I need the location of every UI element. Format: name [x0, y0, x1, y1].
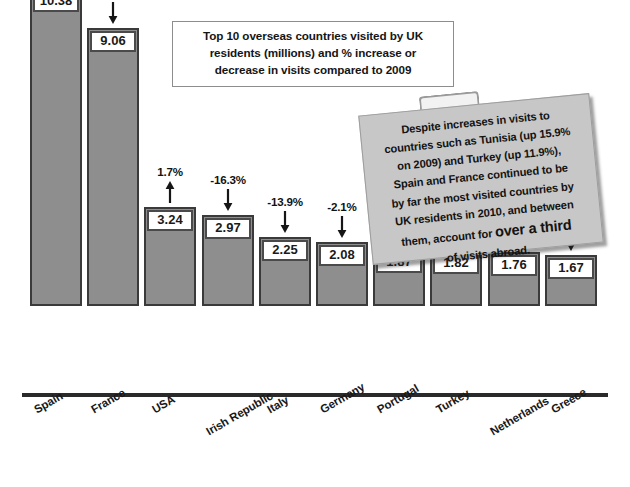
- bar-value-label: 2.97: [205, 218, 251, 239]
- pct-change-annotation: -7.2%: [78, 0, 148, 24]
- bar-value-label: 9.06: [90, 31, 136, 52]
- arrow-down-icon: [108, 2, 118, 24]
- bar-value-label: 10.38: [33, 0, 79, 12]
- bar-value-label: 2.08: [319, 245, 365, 266]
- pct-change-label: -13.9%: [267, 195, 303, 208]
- arrow-down-icon: [337, 216, 347, 238]
- pct-change-label: -16.3%: [210, 173, 246, 186]
- pct-change-label: 1.7%: [157, 165, 183, 178]
- arrow-up-icon: [165, 181, 175, 203]
- chart-canvas: Top 10 overseas countries visited by UK …: [0, 0, 630, 487]
- arrow-down-icon: [223, 189, 233, 211]
- bar-value-label: 1.67: [548, 258, 594, 279]
- callout-emphasis: over a third: [494, 216, 572, 239]
- callout-note: Despite increases in visits tocountries …: [358, 93, 604, 265]
- bar-value-label: 3.24: [147, 210, 193, 231]
- arrow-down-icon: [280, 211, 290, 233]
- pct-change-label: -2.1%: [327, 200, 356, 213]
- bar-france[interactable]: [87, 28, 139, 306]
- callout-note-text: Despite increases in visits tocountries …: [358, 93, 604, 265]
- x-label-netherlands: Netherlands: [488, 394, 551, 437]
- bar-spain[interactable]: [30, 0, 82, 306]
- bar-value-label: 2.25: [262, 240, 308, 261]
